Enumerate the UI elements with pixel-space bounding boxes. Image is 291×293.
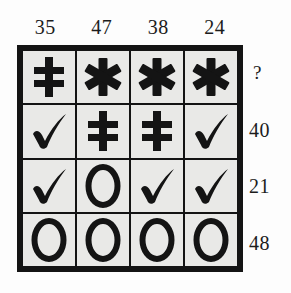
circle-icon: [84, 164, 122, 208]
symbol-grid-puzzle: 35 47 38 24: [0, 0, 291, 293]
grid-cell-r2c2[interactable]: [131, 160, 183, 212]
grid-cell-r3c3[interactable]: [185, 214, 237, 266]
grid-cell-r1c3[interactable]: [185, 105, 237, 157]
grid-cell-r0c0[interactable]: [23, 51, 75, 103]
grid-border: [17, 45, 243, 272]
grid-cell-r3c1[interactable]: [77, 214, 129, 266]
grid-cell-r2c0[interactable]: [23, 160, 75, 212]
grid-cell-r0c3[interactable]: [185, 51, 237, 103]
check-icon: [28, 165, 70, 207]
row-label-2: 21: [249, 159, 291, 216]
double-dagger-icon: [140, 109, 174, 153]
row-label-1: 40: [249, 102, 291, 159]
double-dagger-icon: [32, 55, 66, 99]
column-header-1: 47: [74, 13, 131, 41]
grid-cell-r1c0[interactable]: [23, 105, 75, 157]
grid-cell-r2c3[interactable]: [185, 160, 237, 212]
circle-icon: [192, 218, 230, 262]
asterisk-icon: [137, 56, 177, 98]
grid-cell-r3c2[interactable]: [131, 214, 183, 266]
circle-icon: [84, 218, 122, 262]
check-icon: [136, 165, 178, 207]
column-header-0: 35: [17, 13, 74, 41]
row-label-column: ? 40 21 48: [249, 45, 291, 272]
column-header-row: 35 47 38 24: [17, 13, 243, 41]
symbol-grid: [23, 51, 237, 266]
grid-cell-r1c1[interactable]: [77, 105, 129, 157]
grid-cell-r0c1[interactable]: [77, 51, 129, 103]
grid-cell-r0c2[interactable]: [131, 51, 183, 103]
asterisk-icon: [83, 56, 123, 98]
row-label-3: 48: [249, 215, 291, 272]
grid-cell-r3c0[interactable]: [23, 214, 75, 266]
check-icon: [190, 165, 232, 207]
grid-cell-r2c1[interactable]: [77, 160, 129, 212]
double-dagger-icon: [86, 109, 120, 153]
circle-icon: [30, 218, 68, 262]
check-icon: [190, 110, 232, 152]
column-header-2: 38: [130, 13, 187, 41]
asterisk-icon: [191, 56, 231, 98]
row-label-0: ?: [249, 45, 291, 102]
check-icon: [28, 110, 70, 152]
grid-cell-r1c2[interactable]: [131, 105, 183, 157]
column-header-3: 24: [187, 13, 244, 41]
circle-icon: [138, 218, 176, 262]
